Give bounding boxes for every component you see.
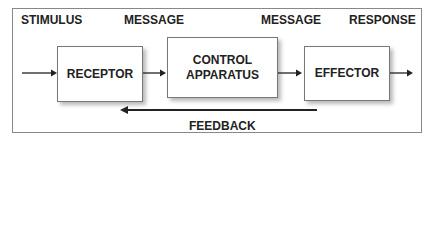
label-feedback: FEEDBACK bbox=[189, 119, 256, 133]
